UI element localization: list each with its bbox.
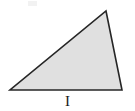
figure-container: I	[0, 0, 135, 111]
triangle-shape	[10, 11, 122, 90]
figure-label: I	[0, 94, 135, 109]
